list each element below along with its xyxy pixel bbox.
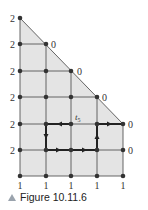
svg-text:1: 1 [44,180,49,191]
bottom-labels: 1 1 1 1 1 [18,180,126,191]
svg-text:0: 0 [51,39,56,50]
svg-text:2: 2 [10,145,15,156]
svg-text:1: 1 [121,180,126,191]
svg-text:0: 0 [128,145,133,156]
svg-text:0: 0 [128,119,133,130]
svg-text:0: 0 [102,92,107,103]
svg-text:1: 1 [69,180,74,191]
caption-text: Figure 10.11.6 [20,191,87,203]
svg-text:1: 1 [18,180,23,191]
left-labels: 2 2 2 2 2 2 [10,13,15,156]
figure-caption: Figure 10.11.6 [8,191,87,203]
svg-text:2: 2 [10,66,15,77]
svg-text:2: 2 [10,92,15,103]
svg-text:2: 2 [10,39,15,50]
svg-text:2: 2 [10,13,15,24]
svg-text:0: 0 [77,66,82,77]
triangle-icon [8,194,16,201]
svg-text:2: 2 [10,119,15,130]
grid-diagram: 2 2 2 2 2 2 0 0 0 0 0 1 1 1 1 1 t5 [0,0,148,210]
svg-text:1: 1 [95,180,100,191]
